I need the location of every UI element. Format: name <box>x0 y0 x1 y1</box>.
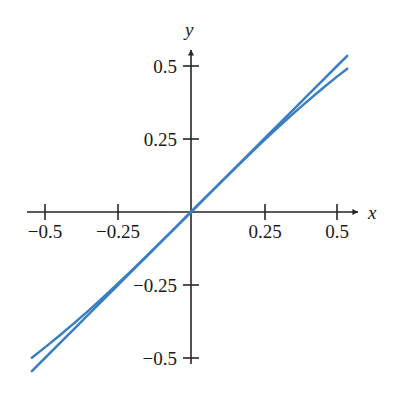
y-tick-label--0.5: −0.5 <box>99 349 177 368</box>
plot-canvas <box>0 0 404 397</box>
y-axis-label: y <box>185 20 193 39</box>
chart-figure: −0.5 −0.25 0.25 0.5 0.5 0.25 −0.25 −0.5 … <box>0 0 404 397</box>
x-tick-label-0.25: 0.25 <box>248 222 281 241</box>
y-tick-label--0.25: −0.25 <box>99 276 177 295</box>
x-axis-label: x <box>368 203 376 222</box>
x-tick-label-0.5: 0.5 <box>325 222 349 241</box>
x-tick-label--0.5: −0.5 <box>28 222 62 241</box>
data-curves <box>32 56 347 371</box>
curve-arctan <box>32 69 347 358</box>
y-tick-label-0.5: 0.5 <box>99 57 177 76</box>
x-tick-label--0.25: −0.25 <box>96 222 140 241</box>
y-tick-label-0.25: 0.25 <box>99 130 177 149</box>
